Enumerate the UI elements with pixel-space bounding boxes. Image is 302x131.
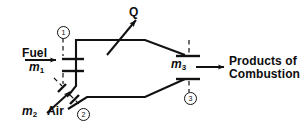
fuel-mdot-subscript: 1 — [40, 66, 45, 75]
state-point-2: 2 — [77, 108, 90, 121]
chamber-fuel-duct-wall — [68, 57, 76, 96]
fuel-mass-flow-label: m1 — [29, 61, 44, 76]
fuel-port-flange-marks — [62, 59, 84, 71]
air-mdot-symbol: m — [22, 104, 33, 118]
fuel-inlet-label: Fuel — [22, 47, 47, 60]
chamber-top-wall — [76, 40, 185, 57]
products-label-line-1: Products of — [229, 54, 297, 68]
products-outlet-label: Products ofCombustion — [229, 55, 300, 82]
air-mass-flow-label: m2 — [22, 105, 37, 120]
heat-transfer-label: Q — [129, 6, 138, 19]
products-mdot-symbol: m — [171, 57, 182, 71]
state-point-3: 3 — [184, 92, 197, 105]
combustion-chamber-diagram: Fuel m1 m2 Air m3 Q Products ofCombustio… — [0, 0, 302, 131]
air-inlet-label: Air — [47, 105, 64, 118]
products-mdot-subscript: 3 — [182, 63, 187, 72]
chamber-bottom-wall — [68, 79, 185, 109]
state-point-1: 1 — [57, 26, 70, 39]
fuel-mdot-symbol: m — [29, 60, 40, 74]
air-mdot-subscript: 2 — [33, 110, 38, 119]
products-mass-flow-label: m3 — [171, 58, 186, 73]
products-label-line-2: Combustion — [229, 67, 300, 81]
heat-transfer-arrow — [107, 20, 136, 55]
